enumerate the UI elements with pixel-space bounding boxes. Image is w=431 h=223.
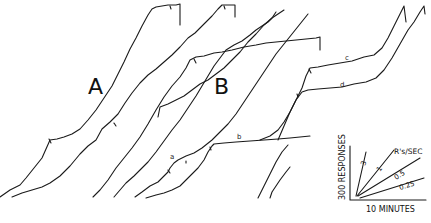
cumulative-record-figure: 300 RESPONSES 10 MINUTES R's/SEC 3 1 0.5… <box>0 0 431 223</box>
segment-label-d: d <box>340 82 344 89</box>
rate-legend: 300 RESPONSES 10 MINUTES R's/SEC 3 1 0.5… <box>338 134 426 214</box>
segment-label-b: b <box>237 134 241 141</box>
curve-d-segment <box>278 6 425 140</box>
rate-label-0-5: 0.5 <box>393 169 407 182</box>
curve-short-2 <box>270 167 290 198</box>
legend-x-label: 10 MINUTES <box>366 205 415 214</box>
tick-mark <box>170 6 171 9</box>
tick-mark <box>309 69 311 73</box>
legend-y-label: 300 RESPONSES <box>338 134 347 200</box>
tick-mark <box>114 123 116 126</box>
rate-line-3 <box>356 152 366 196</box>
segment-label-c: c <box>345 55 349 62</box>
tick-mark <box>224 6 225 9</box>
tick-mark <box>194 59 196 63</box>
legend-units-label: R's/SEC <box>394 147 422 156</box>
curve-c-segment <box>260 6 406 140</box>
panel-label-a: A <box>88 76 103 98</box>
panel-label-b: B <box>214 76 229 98</box>
curve-a2 <box>12 5 235 197</box>
segment-label-a: a <box>170 154 174 161</box>
rate-label-0-25: 0.25 <box>398 180 415 192</box>
curve-b3 <box>158 10 284 117</box>
curve-b2 <box>114 12 276 197</box>
curve-a1 <box>0 4 180 197</box>
curve-b1 <box>93 37 320 197</box>
